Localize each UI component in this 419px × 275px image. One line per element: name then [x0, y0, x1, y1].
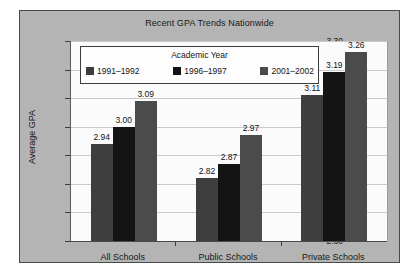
chart-title: Recent GPA Trends Nationwide [20, 18, 399, 28]
legend-swatch-icon [86, 67, 94, 75]
x-axis-tick-label: Public Schools [198, 252, 257, 262]
x-axis-tick-mark [281, 241, 282, 246]
bar-value-label: 3.09 [137, 89, 154, 99]
plot-right-frame [387, 41, 388, 241]
legend-swatch-icon [173, 67, 181, 75]
x-axis-tick-mark [175, 241, 176, 246]
legend-title: Academic Year [81, 50, 318, 60]
legend-label: 2001–2002 [271, 66, 314, 76]
bar [345, 52, 367, 241]
legend-label: 1996–1997 [184, 66, 227, 76]
legend-entry: 2001–2002 [260, 66, 314, 76]
bar-value-label: 2.97 [243, 123, 260, 133]
x-axis-tick-label: All Schools [100, 252, 145, 262]
legend-entry: 1991–1992 [86, 66, 140, 76]
bar-value-label: 3.11 [304, 83, 320, 93]
x-axis-tick-label: Private Schools [302, 252, 365, 262]
bar-value-label: 3.26 [348, 40, 365, 50]
legend-swatch-icon [260, 67, 268, 75]
chart-figure: Recent GPA Trends Nationwide Average GPA… [19, 10, 400, 263]
plot-area: 2.943.003.092.822.872.973.113.193.26 Aca… [70, 41, 387, 242]
legend-items: 1991–19921996–19972001–2002 [86, 66, 314, 76]
bar-value-label: 2.87 [221, 152, 238, 162]
bar [196, 178, 218, 241]
legend-label: 1991–1992 [97, 66, 140, 76]
bar [113, 127, 135, 241]
bar-value-label: 2.94 [93, 132, 110, 142]
bar-value-label: 2.82 [199, 166, 216, 176]
bar [323, 72, 345, 241]
bar [91, 144, 113, 241]
gridline [71, 41, 387, 42]
bar-value-label: 3.19 [326, 60, 343, 70]
bar [240, 135, 262, 241]
bar-value-label: 3.00 [115, 115, 132, 125]
legend-entry: 1996–1997 [173, 66, 227, 76]
bar [301, 95, 323, 241]
bar [135, 101, 157, 241]
bar [218, 164, 240, 241]
chart-legend: Academic Year 1991–19921996–19972001–200… [80, 46, 319, 84]
y-axis-label: Average GPA [27, 62, 37, 212]
